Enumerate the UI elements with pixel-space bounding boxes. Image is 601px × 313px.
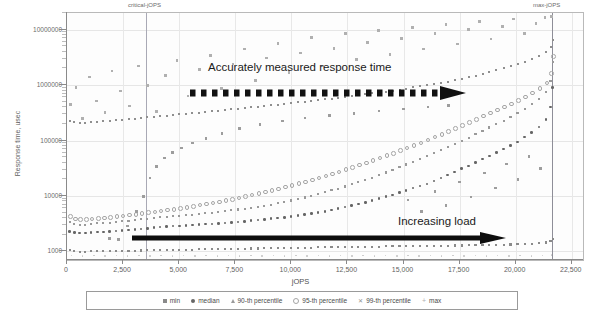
y-minor-tick: [62, 207, 66, 208]
y-minor-tick: [62, 58, 66, 59]
y-minor-tick: [62, 234, 66, 235]
chart-screenshot: critical-jOPS max-jOPS 10000000100000010…: [0, 0, 601, 313]
plot-inner: [67, 13, 583, 260]
y-minor-tick: [62, 96, 66, 97]
legend-label: 90-th percentile: [238, 297, 283, 304]
x-tick-mark: [290, 259, 291, 264]
data-point: [528, 155, 531, 158]
y-minor-tick: [62, 51, 66, 52]
y-tick-mark: [59, 29, 66, 30]
x-tick-label: 12,500: [336, 266, 357, 273]
x-tick-label: 2,500: [113, 266, 131, 273]
x-tick-label: 0: [64, 266, 68, 273]
data-point: [163, 157, 166, 160]
data-point: [205, 137, 208, 140]
y-minor-tick: [62, 101, 66, 102]
legend-marker-triangle-icon: [231, 299, 235, 303]
x-tick-mark: [234, 259, 235, 264]
x-tick-mark: [571, 259, 572, 264]
y-minor-tick: [62, 178, 66, 179]
series-sparse-mid: [67, 13, 583, 260]
x-tick-mark: [178, 259, 179, 264]
y-tick-label: 1000000: [0, 81, 62, 88]
x-tick-label: 22,500: [560, 266, 581, 273]
y-tick-mark: [59, 140, 66, 141]
data-point: [281, 120, 284, 123]
legend-marker-x-icon: ✕: [358, 299, 363, 303]
y-minor-tick: [62, 87, 66, 88]
data-point: [304, 117, 307, 120]
y-tick-label: 10000: [0, 192, 62, 199]
y-minor-tick: [62, 162, 66, 163]
x-tick-label: 20,000: [504, 266, 525, 273]
legend-item-99-th-percentile: ✕99-th percentile: [358, 297, 411, 304]
data-point: [126, 225, 129, 228]
data-point: [135, 210, 138, 213]
critical-jops-label: critical-jOPS: [128, 2, 161, 8]
y-axis-line: [66, 12, 67, 260]
legend-label: min: [170, 297, 180, 304]
y-minor-tick: [62, 224, 66, 225]
max-jops-label: max-jOPS: [533, 2, 560, 8]
y-tick-label: 1000: [0, 247, 62, 254]
y-minor-tick: [62, 123, 66, 124]
y-minor-tick: [62, 156, 66, 157]
legend-marker-plus-icon: +: [422, 299, 426, 303]
data-point: [517, 178, 520, 181]
y-minor-tick: [62, 106, 66, 107]
data-point: [108, 237, 111, 240]
y-minor-tick: [62, 145, 66, 146]
y-tick-label: 100000: [0, 136, 62, 143]
data-point: [117, 238, 120, 241]
y-minor-tick: [62, 152, 66, 153]
data-point: [470, 196, 473, 199]
legend-label: 95-th percentile: [302, 297, 347, 304]
data-point: [434, 190, 437, 193]
data-point: [427, 106, 430, 109]
data-point: [420, 210, 423, 213]
y-minor-tick: [62, 198, 66, 199]
x-tick-label: 17,500: [448, 266, 469, 273]
y-minor-tick: [62, 67, 66, 68]
y-minor-tick: [62, 212, 66, 213]
data-point: [402, 108, 405, 111]
y-axis-title: Response time, usec: [14, 79, 21, 209]
legend-item-median: median: [191, 297, 219, 304]
y-minor-tick: [62, 45, 66, 46]
y-minor-tick: [62, 204, 66, 205]
x-tick-label: 15,000: [392, 266, 413, 273]
legend-label: 99-th percentile: [366, 297, 411, 304]
data-point: [171, 151, 174, 154]
y-minor-tick: [62, 12, 66, 13]
y-tick-mark: [59, 195, 66, 196]
data-point: [378, 110, 381, 113]
x-tick-label: 5,000: [169, 266, 187, 273]
data-point: [458, 181, 461, 184]
y-minor-tick: [62, 148, 66, 149]
x-tick-mark: [66, 259, 67, 264]
y-minor-tick: [62, 142, 66, 143]
legend-item-max: +max: [422, 297, 441, 304]
legend-item-90-th-percentile: 90-th percentile: [231, 297, 283, 304]
data-point: [407, 199, 410, 202]
x-tick-mark: [459, 259, 460, 264]
data-point: [505, 163, 508, 166]
x-axis-title: jOPS: [0, 277, 601, 286]
legend-label: max: [429, 297, 441, 304]
x-tick-mark: [346, 259, 347, 264]
y-minor-tick: [62, 113, 66, 114]
legend-item-95-th-percentile: 95-th percentile: [293, 297, 347, 304]
y-minor-tick: [62, 217, 66, 218]
data-point: [180, 147, 183, 150]
y-minor-tick: [62, 90, 66, 91]
y-minor-tick: [62, 31, 66, 32]
data-point: [353, 112, 356, 115]
data-point: [155, 165, 158, 168]
x-tick-mark: [515, 259, 516, 264]
dotted-arrow-icon: [188, 86, 466, 100]
data-point: [494, 187, 497, 190]
legend-marker-circle-filled-icon: [191, 299, 195, 303]
y-tick-mark: [59, 250, 66, 251]
plot-area: [66, 12, 584, 261]
data-point: [149, 177, 152, 180]
